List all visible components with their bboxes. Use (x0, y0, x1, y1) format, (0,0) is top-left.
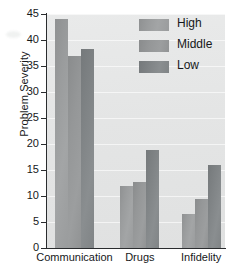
legend-label: Low (177, 58, 199, 72)
bar-communication-middle (68, 56, 81, 248)
y-axis-tick-label: 15 (1, 163, 39, 175)
legend-label: Middle (177, 37, 212, 51)
bar-chart-figure: Problem Severity 051015202530354045 High… (0, 0, 235, 271)
y-axis-tick-mark (41, 196, 46, 197)
y-axis-tick-mark (41, 170, 46, 171)
y-axis-tick-label: 5 (1, 215, 39, 227)
bar-drugs-middle (133, 182, 146, 248)
y-axis-tick-label: 40 (1, 33, 39, 45)
y-axis-tick-label: 35 (1, 59, 39, 71)
x-axis-tick-label-infidelity: Infidelity (141, 251, 235, 263)
legend: HighMiddleLow (139, 16, 231, 79)
y-axis-tick-mark (41, 248, 46, 249)
legend-swatch-middle (139, 40, 169, 52)
y-axis-tick-mark (41, 66, 46, 67)
y-axis-tick-label: 25 (1, 111, 39, 123)
legend-item-middle: Middle (139, 37, 231, 58)
y-axis-tick-mark (41, 144, 46, 145)
bar-drugs-low (146, 150, 159, 248)
bar-drugs-high (120, 186, 133, 248)
x-axis-tick-labels: CommunicationDrugsInfidelity (0, 251, 235, 271)
bar-infidelity-high (182, 214, 195, 248)
y-axis-tick-labels: 051015202530354045 (0, 0, 39, 271)
y-axis-tick-label: 20 (1, 137, 39, 149)
y-axis-tick-mark (41, 40, 46, 41)
y-axis-tick-mark (41, 92, 46, 93)
bar-infidelity-low (208, 165, 221, 248)
y-axis-tick-label: 10 (1, 189, 39, 201)
legend-item-low: Low (139, 58, 231, 79)
legend-swatch-high (139, 19, 169, 31)
bar-communication-high (55, 19, 68, 248)
y-axis-tick-mark (41, 14, 46, 15)
gridline (47, 14, 225, 15)
y-axis-tick-mark (41, 118, 46, 119)
bar-communication-low (81, 49, 94, 248)
y-axis-tick-label: 45 (1, 7, 39, 19)
bar-infidelity-middle (195, 199, 208, 248)
y-axis-tick-label: 30 (1, 85, 39, 97)
x-axis-line (46, 248, 226, 249)
legend-label: High (177, 16, 202, 30)
y-axis-line (46, 13, 47, 249)
legend-item-high: High (139, 16, 231, 37)
legend-swatch-low (139, 61, 169, 73)
y-axis-tick-mark (41, 222, 46, 223)
